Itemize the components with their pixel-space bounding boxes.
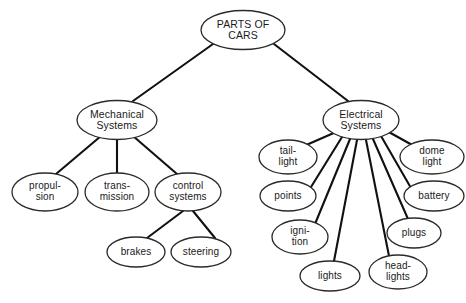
- node-points[interactable]: [260, 181, 316, 211]
- edge-mechanical-to-control-systems: [133, 136, 177, 174]
- edge-electrical-to-lights: [334, 140, 357, 261]
- edge-electrical-to-headlights: [366, 140, 389, 256]
- edge-root-to-mechanical: [133, 44, 213, 101]
- node-battery[interactable]: [404, 181, 464, 211]
- node-steering[interactable]: [171, 237, 231, 267]
- edge-mechanical-to-propulsion: [56, 136, 101, 174]
- node-ignition[interactable]: [272, 220, 328, 254]
- node-group: [12, 11, 464, 292]
- edge-root-to-electrical: [274, 44, 348, 101]
- node-dome-light[interactable]: [400, 140, 464, 174]
- node-propulsion[interactable]: [12, 173, 78, 211]
- node-brakes[interactable]: [107, 237, 165, 267]
- node-lights[interactable]: [300, 261, 360, 291]
- node-headlights[interactable]: [369, 255, 427, 289]
- edge-electrical-to-dome-light: [387, 131, 414, 146]
- node-control-systems[interactable]: [155, 173, 221, 211]
- node-root[interactable]: [201, 11, 285, 50]
- tree-diagram: PARTS OFCARSMechanicalSystemsElectricalS…: [0, 0, 466, 303]
- node-transmission[interactable]: [85, 173, 149, 211]
- node-plugs[interactable]: [387, 218, 441, 248]
- edge-electrical-to-tail-light: [304, 132, 336, 146]
- edge-control-systems-to-steering: [193, 211, 215, 238]
- diagram-canvas: [0, 0, 466, 303]
- node-mechanical[interactable]: [77, 101, 157, 140]
- edge-group: [56, 44, 414, 261]
- node-electrical[interactable]: [323, 101, 399, 140]
- edge-control-systems-to-brakes: [147, 211, 183, 238]
- node-tail-light[interactable]: [259, 140, 317, 174]
